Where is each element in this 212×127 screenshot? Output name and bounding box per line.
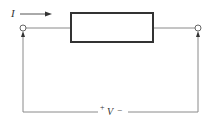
left-up-arrow-icon [21, 31, 25, 37]
current-label: I [10, 7, 16, 19]
current-arrow-icon [20, 12, 52, 17]
resistor-box [71, 13, 153, 42]
circuit-diagram: I + V − [0, 0, 212, 127]
voltage-label: V [107, 106, 115, 117]
left-terminal-icon [20, 25, 26, 31]
right-up-arrow-icon [196, 31, 200, 37]
right-terminal-icon [195, 25, 201, 31]
voltage-minus: − [117, 105, 122, 115]
voltage-plus: + [100, 103, 105, 112]
